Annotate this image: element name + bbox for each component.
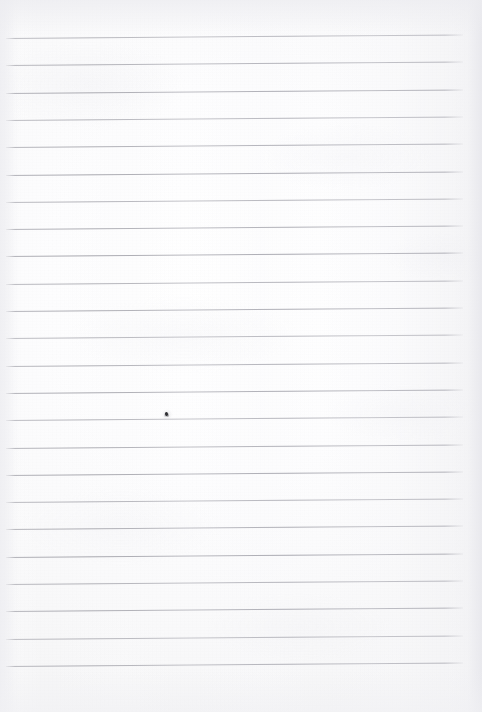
scanned-page	[0, 0, 482, 712]
handwriting-area	[6, 38, 463, 674]
